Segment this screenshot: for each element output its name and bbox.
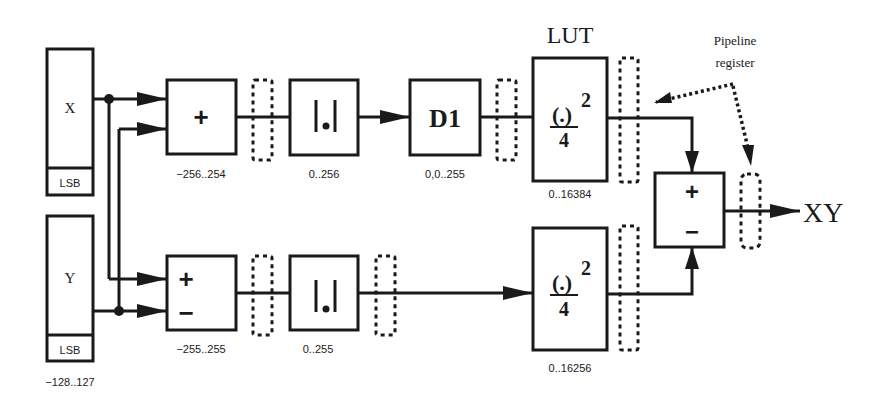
- svg-text:(.): (.): [552, 270, 572, 295]
- multiplier-block-diagram: X LSB Y LSB −128..127 + −256..254 0..256: [0, 0, 888, 403]
- top-adder-range: −256..254: [176, 168, 225, 180]
- annotation-line1: Pipeline: [714, 33, 757, 48]
- minus-symbol: −: [685, 218, 699, 245]
- x-register-lsb: LSB: [60, 177, 81, 189]
- x-junction-dot: [104, 94, 114, 104]
- top-abs-range: 0..256: [309, 168, 340, 180]
- y-register-lsb: LSB: [60, 344, 81, 356]
- pipeline-register-bottom-1: [253, 256, 272, 335]
- plus-symbol: +: [193, 102, 208, 132]
- bottom-abs-block: 0..255: [290, 256, 358, 355]
- y-register-label: Y: [65, 270, 76, 286]
- svg-text:4: 4: [559, 298, 569, 320]
- pipeline-register-top-1: [253, 80, 272, 160]
- bottom-sub-range: −255..255: [176, 343, 225, 355]
- pipeline-register-bottom-3: [620, 226, 638, 350]
- d1-block: D1 0,0..255: [410, 80, 480, 180]
- output-label: XY: [803, 197, 843, 228]
- d1-label: D1: [429, 104, 461, 133]
- top-adder: + −256..254: [167, 80, 236, 180]
- lut-title: LUT: [547, 22, 594, 48]
- input-wiring: [93, 94, 167, 316]
- bottom-lut-block: (.) 2 4 0..16256: [533, 228, 607, 374]
- svg-text:2: 2: [581, 89, 591, 111]
- bottom-subtractor: + − −255..255: [167, 256, 236, 355]
- top-lut-block: (.) 2 4 0..16384: [533, 58, 607, 200]
- pipeline-register-top-2: [497, 80, 516, 160]
- top-abs-block: 0..256: [290, 80, 358, 180]
- y-range-label: −128..127: [45, 376, 94, 388]
- pipeline-register-bottom-2: [376, 256, 395, 335]
- plus-symbol: +: [178, 264, 193, 294]
- annotation-pointers: [654, 84, 754, 166]
- plus-symbol: +: [685, 178, 699, 205]
- minus-symbol: −: [178, 298, 193, 328]
- svg-text:(.): (.): [552, 102, 572, 127]
- bottom-lut-range: 0..16256: [549, 362, 592, 374]
- top-lut-range: 0..16384: [549, 188, 592, 200]
- bottom-abs-range: 0..255: [303, 343, 334, 355]
- y-register: Y LSB −128..127: [45, 216, 94, 388]
- svg-text:4: 4: [559, 129, 569, 151]
- x-register-label: X: [65, 100, 76, 116]
- x-register: X LSB: [47, 49, 93, 195]
- final-subtractor: + −: [655, 173, 724, 247]
- annotation-line2: register: [716, 55, 756, 70]
- svg-text:2: 2: [581, 257, 591, 279]
- pipeline-register-top-3: [620, 58, 638, 182]
- d1-range: 0,0..255: [425, 168, 465, 180]
- y-junction-dot: [114, 306, 124, 316]
